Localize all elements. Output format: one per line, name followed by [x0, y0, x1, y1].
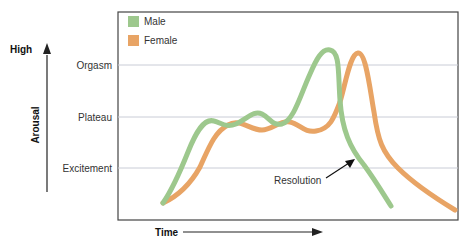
y-axis-label: Arousal [30, 106, 41, 143]
x-axis-label: Time [155, 227, 179, 238]
legend-label-female: Female [144, 35, 178, 46]
annotation-arrow-icon [345, 159, 355, 168]
arrow-right-icon [312, 228, 323, 236]
y-level-excitement: Excitement [63, 163, 113, 174]
legend-label-male: Male [144, 16, 166, 27]
chart-svg: Orgasm Plateau Excitement High Arousal T… [0, 0, 471, 247]
arrow-up-icon [43, 43, 51, 54]
legend-swatch-male [128, 16, 139, 27]
y-level-orgasm: Orgasm [76, 60, 112, 71]
annotation-arrow-line [326, 163, 349, 178]
legend-swatch-female [128, 35, 139, 46]
annotation-resolution: Resolution [274, 175, 321, 186]
y-level-plateau: Plateau [78, 112, 112, 123]
y-axis-high-label: High [10, 44, 32, 55]
